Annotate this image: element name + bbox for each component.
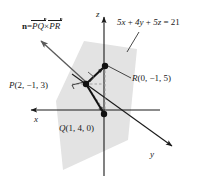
vector-PR-label: PR [49,22,60,31]
eq-rhs: 21 [171,17,180,27]
plane-region [56,41,137,170]
eq-term2: 4y [135,17,144,27]
eq-equals: = [163,17,168,27]
axis-label-z: z [96,10,100,19]
point-R-coords: (0, −1, 5) [138,73,172,83]
eq-plus2: + [146,17,151,27]
eq-term1: 5x [117,17,126,27]
point-label-P: P(2, −1, 3) [9,81,48,90]
point-R [102,63,108,69]
axis-label-x: x [34,115,38,124]
point-label-R: R(0, −1, 5) [132,74,171,83]
eq-plus1: + [128,17,133,27]
point-Q [101,111,107,117]
vector-PQ-label: PQ [32,22,44,31]
axis-label-y: y [150,150,154,159]
point-P [83,81,89,87]
point-label-Q: Q(1, 4, 0) [59,124,94,133]
eq-term3: 5z [153,17,161,27]
figure-3d-plane-normal-vector: z x y n=PQ×PR 5x + 4y + 5z = 21 P(2, −1,… [0,0,208,181]
point-Q-coords: (1, 4, 0) [66,123,95,133]
point-P-coords: (2, −1, 3) [15,80,49,90]
plane-equation-label: 5x + 4y + 5z = 21 [117,18,180,27]
normal-vector-label: n=PQ×PR [22,22,60,31]
